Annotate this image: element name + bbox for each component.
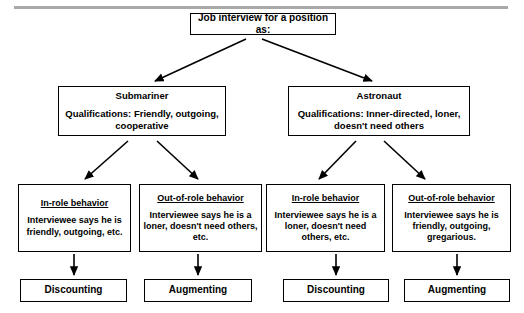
node-outcome-2-label: Augmenting (169, 284, 227, 297)
arrow-top-to-submariner (155, 39, 246, 81)
node-behavior-2-description: Interviewee says he is a loner, doesn't … (143, 210, 258, 244)
node-outcome-1: Discounting (20, 279, 127, 302)
node-role-submariner-title: Submariner (116, 90, 169, 102)
arrow-submariner-to-b2 (157, 141, 198, 179)
node-outcome-3: Discounting (283, 279, 389, 302)
node-outcome-1-label: Discounting (45, 284, 103, 297)
node-outcome-4-label: Augmenting (428, 284, 486, 297)
node-behavior-3: In-role behavior Interviewee says he is … (266, 184, 385, 252)
node-job-interview: Job interview for a position as: (190, 13, 336, 35)
node-outcome-3-label: Discounting (307, 284, 365, 297)
node-role-astronaut: Astronaut Qualifications: Inner-directed… (288, 86, 470, 136)
node-role-submariner: Submariner Qualifications: Friendly, out… (58, 86, 226, 136)
node-job-interview-label: Job interview for a position as: (191, 12, 335, 37)
node-outcome-4: Augmenting (404, 279, 510, 302)
node-outcome-2: Augmenting (144, 279, 252, 302)
node-behavior-2: Out-of-role behavior Interviewee says he… (139, 184, 262, 252)
connector-arrows (0, 0, 524, 313)
node-behavior-1: In-role behavior Interviewee says he is … (18, 184, 131, 252)
arrow-top-to-astronaut (262, 39, 372, 81)
node-role-astronaut-qualifications: Qualifications: Inner-directed, loner, d… (289, 108, 469, 132)
node-behavior-2-heading: Out-of-role behavior (157, 193, 244, 204)
arrow-astronaut-to-b3 (319, 141, 356, 179)
node-behavior-4-description: Interviewee says he is friendly, outgoin… (396, 210, 507, 244)
node-behavior-4-heading: Out-of-role behavior (408, 193, 495, 204)
node-role-astronaut-title: Astronaut (357, 90, 402, 102)
header-divider-rule (14, 6, 508, 9)
node-behavior-3-heading: In-role behavior (292, 193, 360, 204)
arrow-astronaut-to-b4 (384, 141, 425, 179)
node-behavior-3-description: Interviewee says he is a loner, doesn't … (270, 210, 381, 244)
node-behavior-4: Out-of-role behavior Interviewee says he… (392, 184, 511, 252)
node-behavior-1-description: Interviewee says he is friendly, outgoin… (22, 215, 127, 238)
node-behavior-1-heading: In-role behavior (41, 198, 109, 209)
attribution-flowchart: Job interview for a position as: Submari… (0, 0, 524, 313)
arrow-submariner-to-b1 (85, 141, 128, 179)
node-role-submariner-qualifications: Qualifications: Friendly, outgoing, coop… (59, 108, 225, 132)
